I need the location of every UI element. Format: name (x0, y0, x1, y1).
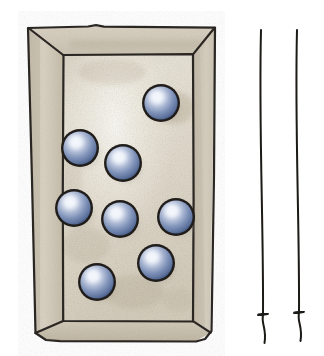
illustration-canvas: Open box containing blue spheres with tw… (0, 0, 324, 356)
sphere-body (144, 86, 177, 119)
sphere-body (103, 202, 136, 235)
sphere-body (106, 146, 139, 179)
sphere-specular-highlight (151, 92, 164, 103)
sphere-specular-highlight (110, 208, 123, 219)
box-wall-bottom (35, 321, 210, 341)
sphere-specular-highlight (166, 206, 179, 217)
string-path (260, 30, 263, 315)
string-tail (263, 315, 266, 343)
sphere-body (63, 131, 96, 164)
rim-shading-top (70, 40, 206, 48)
sphere-specular-highlight (70, 137, 83, 148)
string-path (296, 30, 299, 313)
string-tail (299, 313, 302, 341)
string-group (259, 30, 304, 343)
floor-stain (162, 288, 194, 312)
floor-stain (78, 59, 146, 85)
illustration-svg (0, 0, 324, 356)
string-right (295, 30, 304, 341)
string-left (259, 30, 268, 343)
sphere-body (57, 191, 90, 224)
sphere-body (139, 246, 172, 279)
floor-stain (62, 227, 110, 263)
sphere-body (159, 200, 192, 233)
sphere-body (80, 265, 113, 298)
sphere-specular-highlight (146, 252, 159, 263)
sphere-specular-highlight (113, 152, 126, 163)
sphere-specular-highlight (87, 271, 100, 282)
sphere-specular-highlight (64, 197, 77, 208)
